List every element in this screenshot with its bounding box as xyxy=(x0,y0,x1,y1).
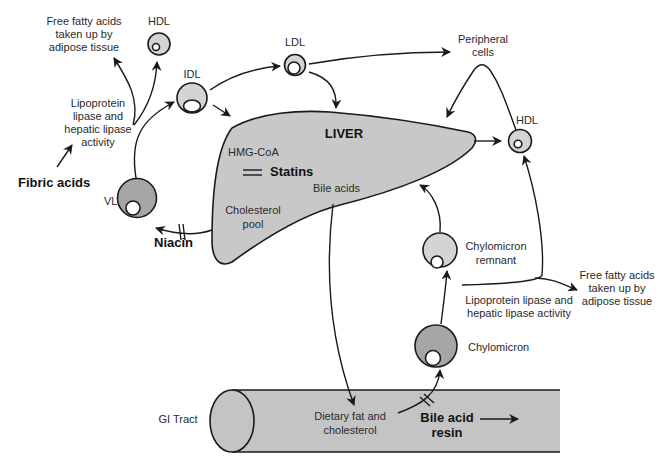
ldl-label: LDL xyxy=(285,36,305,48)
lipase-left-label-4: activity xyxy=(81,136,115,148)
chylomicron-label: Chylomicron xyxy=(468,341,529,353)
fibric-acids-label: Fibric acids xyxy=(18,175,90,190)
arrow-chylomicron-to-remnant xyxy=(441,271,447,324)
arrow-hdl-peripheral-liver xyxy=(447,65,516,130)
arrows xyxy=(57,52,577,419)
statins-label: Statins xyxy=(270,164,313,179)
bile-acid-resin-label-1: Bile acid xyxy=(420,410,474,425)
arrow-vldl-to-idl xyxy=(134,102,174,178)
dietary-fat-label-2: cholesterol xyxy=(323,424,376,436)
arrow-to-ffa-right xyxy=(535,278,577,290)
arrow-bile-acids-to-gi xyxy=(329,204,354,405)
arrow-fibric-acids xyxy=(57,145,72,167)
lipase-right-label-2: hepatic lipase activity xyxy=(467,307,571,319)
ffa-right-label-2: taken up by xyxy=(589,282,646,294)
ffa-right-label-1: Free fatty acids xyxy=(579,269,655,281)
chylomicron-particle xyxy=(415,325,457,367)
cholesterol-pool-label-2: pool xyxy=(243,218,264,230)
lipase-left-label-2: lipase and xyxy=(73,110,123,122)
dietary-fat-label-1: Dietary fat and xyxy=(314,410,386,422)
peripheral-cells-label-2: cells xyxy=(472,46,495,58)
idl-label: IDL xyxy=(183,68,200,80)
gi-tract-opening xyxy=(210,390,254,452)
lipase-right-label-1: Lipoprotein lipase and xyxy=(465,294,573,306)
hdl-right-label: HDL xyxy=(516,114,538,126)
hmg-coa-label: HMG-CoA xyxy=(228,146,279,158)
niacin-label: Niacin xyxy=(154,235,193,250)
hdl-particle-top xyxy=(148,33,170,55)
lipase-left-label-3: hepatic lipase xyxy=(64,123,131,135)
liver-label: LIVER xyxy=(325,126,364,141)
lipase-left-label-1: Lipoprotein xyxy=(71,97,125,109)
vldl-particle xyxy=(118,179,157,218)
bile-acids-label: Bile acids xyxy=(313,182,361,194)
ffa-left-label-1: Free fatty acids xyxy=(46,15,122,27)
hdl-top-label: HDL xyxy=(148,15,170,27)
ffa-left-label-2: taken up by xyxy=(56,28,113,40)
gi-tract-label: GI Tract xyxy=(158,413,197,425)
arrow-ldl-to-liver xyxy=(309,72,336,108)
gi-tract-body xyxy=(232,390,560,452)
ldl-particle xyxy=(285,55,306,76)
hdl-particle-right xyxy=(509,130,532,153)
lipoprotein-metabolism-diagram: GI Tract LIVER HMG-CoA Statins Bile acid… xyxy=(0,0,669,461)
arrow-idl-to-ldl xyxy=(210,66,280,90)
bile-acid-resin-label-2: resin xyxy=(431,425,462,440)
ffa-right-label-3: adipose tissue xyxy=(582,295,652,307)
peripheral-cells-label-1: Peripheral xyxy=(458,33,508,45)
ffa-left-label-3: adipose tissue xyxy=(49,41,119,53)
chylomicron-remnant-label-2: remnant xyxy=(476,254,516,266)
chylomicron-remnant-label-1: Chylomicron xyxy=(465,240,526,252)
cholesterol-pool-label-1: Cholesterol xyxy=(225,204,281,216)
arrow-remnant-to-liver xyxy=(420,185,440,232)
arrow-ldl-to-peripheral xyxy=(309,52,450,64)
idl-particle xyxy=(177,83,207,113)
arrow-idl-to-liver xyxy=(213,105,230,116)
chylomicron-remnant-particle xyxy=(423,233,457,268)
